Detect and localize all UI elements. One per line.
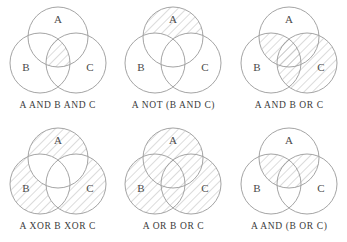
label-c: C <box>317 61 324 73</box>
label-b: B <box>22 182 29 194</box>
label-a: A <box>170 13 178 25</box>
venn-svg-a-and-b-and-c: A B C <box>2 1 114 101</box>
caption-a-not-b-and-c: A NOT (B AND C) <box>132 100 215 110</box>
caption-a-xor-b-xor-c: A XOR B XOR C <box>20 221 96 231</box>
venn-svg-a-and-b-or-c: A B C <box>233 1 345 101</box>
venn-svg-a-not-b-and-c: A B C <box>117 1 229 101</box>
label-a: A <box>285 134 293 146</box>
venn-diagram-sheet: A B C A AND B AND C <box>0 0 347 242</box>
label-b: B <box>253 61 260 73</box>
label-b: B <box>253 182 260 194</box>
diagram-a-and-b-or-c-parens: A B C A AND (B OR C) <box>231 121 347 242</box>
label-b: B <box>138 182 145 194</box>
diagram-a-or-b-or-c: A B C A OR B OR C <box>116 121 232 242</box>
label-b: B <box>22 61 29 73</box>
diagram-grid: A B C A AND B AND C <box>0 0 347 242</box>
caption-a-or-b-or-c: A OR B OR C <box>143 221 205 231</box>
venn-svg-a-xor-b-xor-c: A B C <box>2 122 114 222</box>
caption-a-and-b-or-c: A AND B OR C <box>255 100 324 110</box>
caption-a-and-b-and-c: A AND B AND C <box>20 100 96 110</box>
diagram-a-xor-b-xor-c: A B C A XOR B XOR C <box>0 121 116 242</box>
caption-a-and-b-or-c-parens: A AND (B OR C) <box>251 221 328 231</box>
label-a: A <box>54 134 62 146</box>
label-a: A <box>54 13 62 25</box>
diagram-a-and-b-and-c: A B C A AND B AND C <box>0 0 116 121</box>
label-c: C <box>202 182 209 194</box>
label-a: A <box>170 134 178 146</box>
venn-svg-a-and-b-or-c-parens: A B C <box>233 122 345 222</box>
label-c: C <box>202 61 209 73</box>
label-c: C <box>86 182 93 194</box>
diagram-a-not-b-and-c: A B C A NOT (B AND C) <box>116 0 232 121</box>
label-c: C <box>317 182 324 194</box>
diagram-a-and-b-or-c: A B C A AND B OR C <box>231 0 347 121</box>
label-b: B <box>138 61 145 73</box>
venn-svg-a-or-b-or-c: A B C <box>117 122 229 222</box>
label-a: A <box>285 13 293 25</box>
label-c: C <box>86 61 93 73</box>
